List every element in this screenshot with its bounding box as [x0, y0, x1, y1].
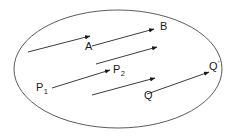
label-q: Q	[144, 89, 153, 101]
label-p2-base: P	[113, 63, 120, 75]
label-q-prime-prime: '	[218, 59, 220, 68]
label-a: A	[85, 40, 93, 52]
label-q-prime-base: Q	[209, 60, 218, 72]
label-b: B	[160, 20, 167, 32]
arrow-q-prime	[147, 72, 209, 94]
label-q-base: Q	[144, 89, 153, 101]
label-p1-subscript: 1	[44, 87, 48, 96]
label-p1: P1	[36, 81, 48, 96]
label-b-base: B	[160, 20, 167, 32]
diagram-svg: ABP1P2QQ'	[0, 0, 236, 138]
arrow-a	[28, 36, 90, 52]
label-p2-subscript: 2	[121, 69, 125, 78]
label-a-base: A	[85, 40, 93, 52]
arrow-p	[52, 70, 110, 88]
arrow-b	[92, 29, 154, 46]
label-p1-base: P	[36, 81, 43, 93]
arrow-unlabeled-middle	[96, 47, 157, 64]
label-layer: ABP1P2QQ'	[36, 20, 220, 101]
vector-diagram-canvas: ABP1P2QQ'	[0, 0, 236, 138]
label-p2: P2	[113, 63, 125, 78]
label-q-prime: Q'	[209, 59, 220, 72]
arrow-layer	[28, 29, 209, 95]
